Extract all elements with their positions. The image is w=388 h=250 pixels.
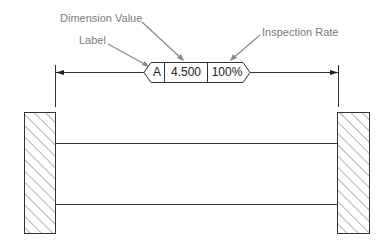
left-hatched-block (25, 113, 56, 234)
arrowhead-right-icon (330, 70, 338, 75)
balloon-label: A (149, 62, 165, 82)
leader-label-arrow-icon (142, 61, 149, 67)
balloon-inspection-rate: 100% (208, 62, 246, 82)
leader-dimension-value (142, 22, 183, 60)
callout-dimension-value: Dimension Value (60, 12, 142, 24)
right-hatched-block (338, 113, 370, 234)
leader-label (108, 44, 148, 66)
leader-inspection-rate (231, 35, 260, 60)
arrowhead-left-icon (56, 70, 64, 75)
callout-inspection-rate: Inspection Rate (262, 26, 338, 38)
balloon-dimension-value: 4.500 (165, 62, 207, 82)
callout-label: Label (79, 34, 106, 46)
